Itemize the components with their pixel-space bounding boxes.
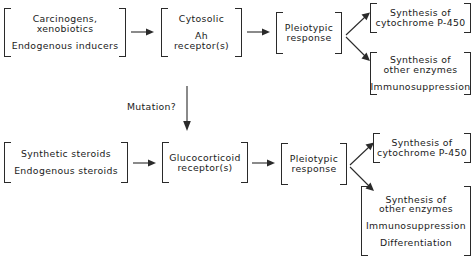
steroids-line-1: Synthetic steroids (21, 149, 111, 159)
other-enzymes-top-box: Synthesis of other enzymes Immunosuppres… (370, 52, 471, 95)
cytochrome-p450-bottom-box: Synthesis of cytochrome P-450 (373, 133, 471, 163)
bracket-right (464, 133, 471, 163)
enzymes-top-line-3: Immunosuppression (370, 82, 470, 92)
ah-receptor-line-1: Cytosolic (179, 14, 224, 24)
pleiotypic-top-line-2: response (286, 33, 331, 43)
arrow-ah-receptor-to-pleiotypic-top (247, 27, 271, 37)
inducers-box: Carcinogens, xenobiotics Endogenous indu… (4, 8, 126, 57)
arrow-fork-top-upper (345, 12, 371, 36)
inducers-line-2: xenobiotics (37, 24, 94, 34)
bracket-left (161, 8, 168, 57)
arrow-gc-receptor-to-pleiotypic-bottom (252, 158, 276, 168)
pleiotypic-response-bottom-box: Pleiotypic response (281, 143, 347, 185)
p450-bottom-line-2: cytochrome P-450 (377, 148, 467, 158)
bracket-left (373, 133, 380, 163)
pleiotypic-bottom-line-2: response (291, 164, 336, 174)
arrow-mutation-vertical (181, 86, 193, 132)
arrow-fork-top-lower (345, 36, 371, 62)
bracket-left (276, 12, 283, 54)
arrow-inducers-to-ah-receptor (131, 27, 155, 37)
other-enzymes-bottom-box: Synthesis of other enzymes Immunosuppres… (361, 186, 471, 256)
bracket-right (235, 8, 242, 57)
bracket-right (464, 186, 471, 256)
enzymes-bottom-line-4: Differentiation (380, 238, 452, 248)
bracket-left (281, 143, 288, 185)
bracket-left (361, 186, 368, 256)
ah-receptor-box: Cytosolic Ah receptor(s) (161, 8, 242, 57)
bracket-right (464, 52, 471, 95)
steroids-box: Synthetic steroids Endogenous steroids (4, 142, 128, 183)
cytochrome-p450-top-box: Synthesis of cytochrome P-450 (370, 3, 471, 33)
bracket-left (370, 52, 377, 95)
bracket-left (4, 8, 11, 57)
bracket-left (162, 142, 169, 183)
bracket-left (370, 3, 377, 33)
mutation-label: Mutation? (127, 101, 176, 112)
gc-receptor-line-2: receptor(s) (177, 163, 232, 173)
inducers-line-3: Endogenous inducers (12, 41, 119, 51)
enzymes-bottom-line-2: other enzymes (379, 204, 453, 214)
bracket-left (4, 142, 11, 183)
bracket-right (340, 143, 347, 185)
bracket-right (241, 142, 248, 183)
ah-receptor-line-3: receptor(s) (174, 41, 229, 51)
enzymes-bottom-line-3: Immunosuppression (366, 221, 466, 231)
pleiotypic-response-top-box: Pleiotypic response (276, 12, 342, 54)
glucocorticoid-receptor-box: Glucocorticoid receptor(s) (162, 142, 248, 183)
enzymes-top-line-2: other enzymes (384, 65, 458, 75)
bracket-right (119, 8, 126, 57)
bracket-right (121, 142, 128, 183)
p450-top-line-2: cytochrome P-450 (375, 18, 465, 28)
steroids-line-2: Endogenous steroids (14, 166, 118, 176)
bracket-right (335, 12, 342, 54)
arrow-fork-bottom-upper (349, 142, 375, 166)
bracket-right (464, 3, 471, 33)
arrow-steroids-to-gc-receptor (133, 158, 157, 168)
